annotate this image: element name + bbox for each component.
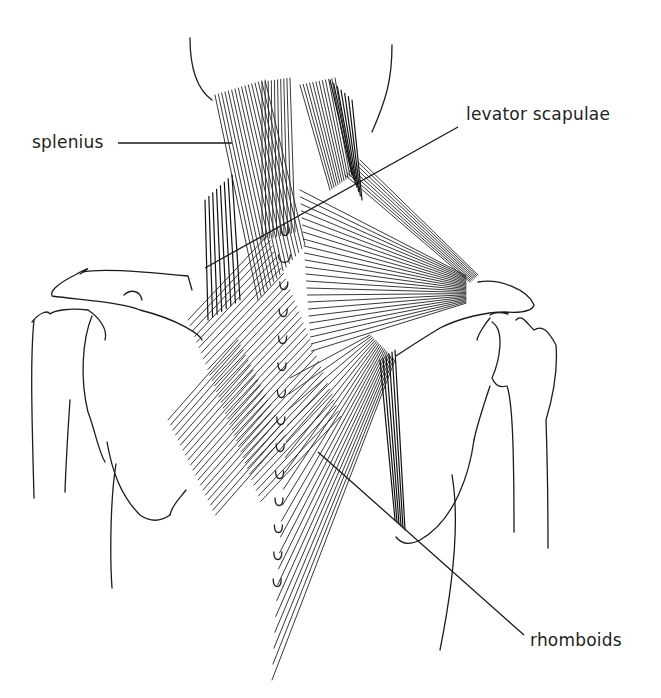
label-levator-scapulae: levator scapulae <box>466 106 610 123</box>
left-torso-outline <box>170 490 186 515</box>
right-shoulder-outline <box>396 281 556 650</box>
muscle-fibers <box>168 78 478 680</box>
left-shoulder-outline <box>32 268 202 588</box>
label-rhomboids: rhomboids <box>530 632 622 649</box>
label-leader-lines <box>118 127 524 635</box>
label-splenius: splenius <box>32 134 104 151</box>
